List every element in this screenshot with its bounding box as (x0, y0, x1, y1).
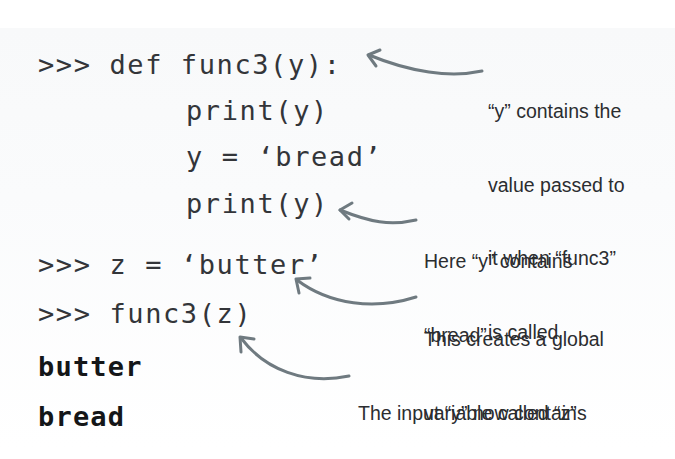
arrow-to-butter-icon (296, 278, 416, 304)
annotation-arrows (0, 0, 675, 459)
arrow-to-func-call-icon (240, 337, 349, 379)
arrow-to-def-icon (368, 50, 482, 74)
arrow-to-print-icon (340, 203, 416, 223)
